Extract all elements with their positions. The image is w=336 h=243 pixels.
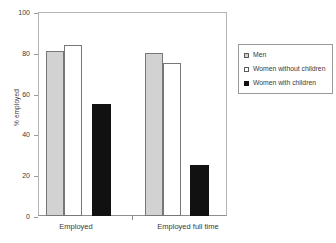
legend-label-women-with-children: Women with children xyxy=(253,79,316,87)
y-tick-0: 0 xyxy=(0,216,38,217)
plot-area xyxy=(38,12,227,216)
bar-women-with-children-employed xyxy=(92,104,111,216)
y-axis-title: % employed xyxy=(13,58,20,158)
bar-men-employed-full-time xyxy=(145,53,163,216)
legend-swatch-gray-icon xyxy=(244,53,249,58)
y-tick-40: 40 xyxy=(0,134,38,135)
y-tick-mark-0 xyxy=(34,217,38,218)
legend-label-men: Men xyxy=(253,51,266,59)
y-tick-100: 100 xyxy=(0,12,38,13)
bar-men-employed xyxy=(46,51,64,216)
bar-chart-figure: % employed 0 20 40 60 80 100 Employed Em… xyxy=(0,0,336,243)
y-tick-label-60: 60 xyxy=(22,90,30,99)
legend-swatch-black-icon xyxy=(244,81,249,86)
bar-women-without-children-employed xyxy=(64,45,82,216)
x-group-tick-separator xyxy=(132,216,133,220)
x-label-employed: Employed xyxy=(16,222,136,232)
chart-legend: Men Women without children Women with ch… xyxy=(238,44,333,94)
legend-item-men: Men xyxy=(244,51,327,59)
y-tick-label-100: 100 xyxy=(18,8,30,17)
y-tick-label-0: 0 xyxy=(26,212,30,221)
y-tick-label-20: 20 xyxy=(22,171,30,180)
y-tick-80: 80 xyxy=(0,53,38,54)
y-tick-label-40: 40 xyxy=(22,130,30,139)
y-tick-60: 60 xyxy=(0,94,38,95)
bar-women-without-children-employed-full-time xyxy=(163,63,181,216)
legend-item-women-with-children: Women with children xyxy=(244,79,327,87)
legend-swatch-white-icon xyxy=(244,67,249,72)
legend-label-women-without-children: Women without children xyxy=(253,65,325,73)
y-tick-label-80: 80 xyxy=(22,49,30,58)
bar-women-with-children-employed-full-time xyxy=(190,165,209,216)
legend-item-women-without-children: Women without children xyxy=(244,65,327,73)
y-tick-20: 20 xyxy=(0,175,38,176)
x-label-employed-full-time: Employed full time xyxy=(128,222,248,232)
